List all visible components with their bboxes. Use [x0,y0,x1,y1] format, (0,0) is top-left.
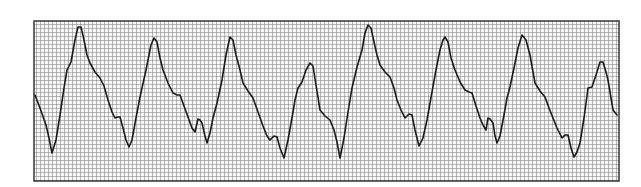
ecg-chart [0,0,641,187]
ecg-strip [0,0,641,187]
grid-paper [34,21,619,181]
